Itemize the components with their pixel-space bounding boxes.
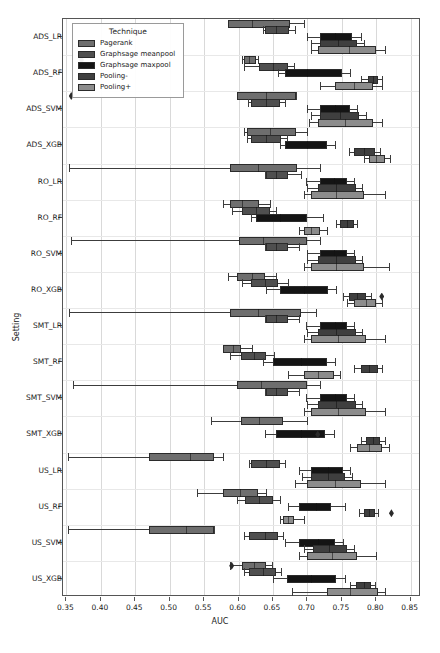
legend-entry[interactable]: Graphsage maxpool bbox=[78, 60, 178, 70]
whisker-cap bbox=[304, 263, 305, 271]
whisker-cap bbox=[211, 417, 212, 425]
x-tick-label: 0.80 bbox=[367, 603, 384, 612]
x-tick bbox=[306, 597, 307, 601]
legend-entries: PagerankGraphsage meanpoolGraphsage maxp… bbox=[78, 38, 178, 92]
whisker-cap bbox=[309, 119, 310, 127]
whisker-cap bbox=[350, 444, 351, 452]
box-iqr bbox=[241, 417, 284, 425]
x-tick bbox=[169, 597, 170, 601]
legend-title: Technique bbox=[78, 27, 178, 36]
median-line bbox=[366, 299, 367, 307]
legend-entry[interactable]: Pagerank bbox=[78, 38, 178, 48]
whisker-cap bbox=[364, 155, 365, 163]
whisker-cap bbox=[376, 552, 377, 560]
box-iqr bbox=[327, 588, 378, 596]
whisker-cap bbox=[304, 516, 305, 524]
y-tick-label: ADS_SVM bbox=[26, 104, 62, 113]
median-line bbox=[318, 371, 319, 379]
boxplot-box bbox=[63, 263, 419, 271]
legend-swatch-icon bbox=[78, 62, 95, 69]
x-tick bbox=[410, 597, 411, 601]
legend-swatch-icon bbox=[78, 40, 95, 47]
whisker-cap bbox=[307, 417, 308, 425]
whisker-cap bbox=[288, 371, 289, 379]
median-line bbox=[369, 444, 370, 452]
chart-legend: Technique PagerankGraphsage meanpoolGrap… bbox=[72, 23, 184, 98]
whisker-cap bbox=[389, 444, 390, 452]
x-tick bbox=[341, 597, 342, 601]
median-line bbox=[376, 155, 377, 163]
whisker-cap bbox=[385, 191, 386, 199]
boxplot-box bbox=[63, 588, 419, 596]
whisker-cap bbox=[340, 371, 341, 379]
median-line bbox=[336, 263, 337, 271]
boxplot-figure: Technique PagerankGraphsage meanpoolGrap… bbox=[0, 0, 440, 653]
x-tick bbox=[134, 597, 135, 601]
box-iqr bbox=[311, 191, 364, 199]
x-tick-label: 0.45 bbox=[126, 603, 143, 612]
median-line bbox=[332, 552, 333, 560]
y-tick-label: SMT_LR bbox=[33, 321, 62, 330]
median-line bbox=[311, 227, 312, 235]
whisker-cap bbox=[304, 408, 305, 416]
boxplot-box bbox=[63, 119, 419, 127]
boxplot-box bbox=[63, 408, 419, 416]
whisker-cap bbox=[295, 480, 296, 488]
whisker-cap bbox=[382, 119, 383, 127]
x-tick bbox=[272, 597, 273, 601]
legend-label: Graphsage maxpool bbox=[100, 61, 171, 69]
x-tick-label: 0.40 bbox=[92, 603, 109, 612]
legend-entry[interactable]: Pooling+ bbox=[78, 82, 178, 92]
whisker-cap bbox=[299, 552, 300, 560]
whisker-cap bbox=[299, 227, 300, 235]
x-tick bbox=[65, 597, 66, 601]
x-tick-label: 0.65 bbox=[264, 603, 281, 612]
median-line bbox=[338, 335, 339, 343]
x-tick-label: 0.55 bbox=[195, 603, 212, 612]
boxplot-box bbox=[63, 444, 419, 452]
x-tick bbox=[203, 597, 204, 601]
y-tick-label: US_XGB bbox=[32, 573, 62, 582]
y-tick-label: US_SVM bbox=[32, 537, 62, 546]
y-tick-label: ADS_XGB bbox=[26, 140, 62, 149]
legend-swatch-icon bbox=[78, 73, 95, 80]
y-tick-label: SMT_RF bbox=[33, 357, 62, 366]
whisker-cap bbox=[389, 263, 390, 271]
whisker-cap bbox=[347, 299, 348, 307]
x-tick-label: 0.75 bbox=[332, 603, 349, 612]
boxplot-box bbox=[63, 552, 419, 560]
whisker-cap bbox=[292, 588, 293, 596]
x-tick-label: 0.70 bbox=[298, 603, 315, 612]
whisker-cap bbox=[382, 82, 383, 90]
y-tick-label: RO_XGB bbox=[31, 284, 62, 293]
x-tick bbox=[100, 597, 101, 601]
legend-entry[interactable]: Graphsage meanpool bbox=[78, 49, 178, 59]
box-iqr bbox=[304, 227, 320, 235]
boxplot-box bbox=[63, 516, 419, 524]
median-line bbox=[345, 119, 346, 127]
boxplot-box bbox=[63, 191, 419, 199]
boxplot-box bbox=[63, 480, 419, 488]
whisker-cap bbox=[382, 299, 383, 307]
boxplot-box bbox=[63, 299, 419, 307]
whisker-cap bbox=[385, 335, 386, 343]
boxplot-box bbox=[63, 155, 419, 163]
whisker-cap bbox=[304, 191, 305, 199]
box-iqr bbox=[304, 371, 334, 379]
y-tick-label: SMT_SVM bbox=[26, 393, 62, 402]
legend-label: Graphsage meanpool bbox=[100, 50, 175, 58]
x-tick bbox=[238, 597, 239, 601]
median-line bbox=[288, 516, 289, 524]
legend-swatch-icon bbox=[78, 51, 95, 58]
legend-label: Pooling- bbox=[100, 72, 128, 80]
legend-entry[interactable]: Pooling- bbox=[78, 71, 178, 81]
plot-area bbox=[62, 18, 420, 596]
x-tick-label: 0.85 bbox=[401, 603, 418, 612]
x-tick bbox=[375, 597, 376, 601]
y-tick-label: US_RF bbox=[38, 501, 62, 510]
boxplot-box bbox=[63, 417, 419, 425]
y-tick-label: US_LR bbox=[39, 465, 62, 474]
whisker-cap bbox=[390, 155, 391, 163]
whisker-cap bbox=[385, 480, 386, 488]
y-tick-label: RO_RF bbox=[38, 212, 62, 221]
